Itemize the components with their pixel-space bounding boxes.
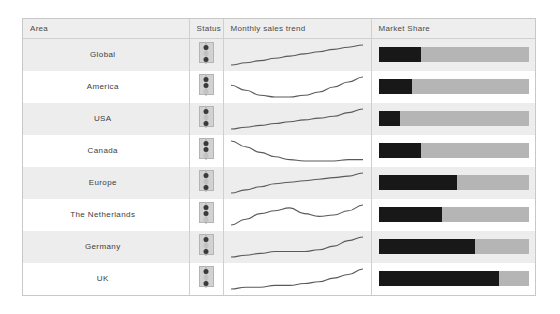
traffic-light-lamp-2	[204, 51, 209, 56]
sparkline-chart	[228, 106, 366, 132]
cell-market-share	[371, 39, 536, 71]
traffic-light-lamp-3	[204, 153, 209, 158]
cell-market-share	[371, 199, 536, 231]
cell-area: UK	[23, 263, 189, 295]
cell-status	[189, 231, 223, 263]
area-label: The Netherlands	[23, 210, 189, 219]
traffic-light-lamp-2	[204, 83, 209, 88]
traffic-light-lamp-1	[204, 109, 209, 114]
sales-table: Area Status Monthly sales trend Market S…	[23, 19, 536, 295]
market-share-bar	[379, 239, 530, 254]
traffic-light-lamp-3	[204, 217, 209, 222]
market-share-bar	[379, 111, 530, 126]
sparkline-chart	[228, 74, 366, 100]
market-share-bar	[379, 175, 530, 190]
market-share-bar-own	[379, 271, 499, 286]
column-header-share[interactable]: Market Share	[371, 19, 536, 39]
sales-dashboard-panel: Area Status Monthly sales trend Market S…	[22, 18, 536, 296]
cell-market-share	[371, 231, 536, 263]
traffic-light-icon[interactable]	[199, 266, 214, 287]
area-label: Canada	[23, 146, 189, 155]
cell-area: Germany	[23, 231, 189, 263]
header-row: Area Status Monthly sales trend Market S…	[23, 19, 536, 39]
cell-area: Global	[23, 39, 189, 71]
column-header-status[interactable]: Status	[189, 19, 223, 39]
traffic-light-icon[interactable]	[199, 170, 214, 191]
traffic-light-icon[interactable]	[199, 106, 214, 127]
cell-area: Europe	[23, 167, 189, 199]
cell-trend	[223, 263, 371, 295]
cell-market-share	[371, 167, 536, 199]
cell-status	[189, 39, 223, 71]
cell-market-share	[371, 71, 536, 103]
cell-trend	[223, 135, 371, 167]
table-body: GlobalAmericaUSACanadaEuropeThe Netherla…	[23, 39, 536, 296]
cell-trend	[223, 199, 371, 231]
table-row[interactable]: The Netherlands	[23, 199, 536, 231]
cell-area: Canada	[23, 135, 189, 167]
market-share-bar-rest	[379, 111, 530, 126]
traffic-light-lamp-3	[204, 89, 209, 94]
market-share-bar	[379, 47, 530, 62]
cell-status	[189, 103, 223, 135]
sparkline-chart	[228, 170, 366, 196]
traffic-light-lamp-1	[204, 205, 209, 210]
market-share-bar	[379, 79, 530, 94]
sparkline-chart	[228, 234, 366, 260]
traffic-light-lamp-1	[204, 173, 209, 178]
area-label: Europe	[23, 178, 189, 187]
cell-trend	[223, 167, 371, 199]
traffic-light-lamp-3	[204, 121, 209, 126]
cell-status	[189, 263, 223, 295]
cell-area: USA	[23, 103, 189, 135]
area-label: Germany	[23, 242, 189, 251]
traffic-light-icon[interactable]	[199, 138, 214, 159]
table-row[interactable]: UK	[23, 263, 536, 295]
table-row[interactable]: Global	[23, 39, 536, 71]
table-row[interactable]: USA	[23, 103, 536, 135]
traffic-light-lamp-1	[204, 77, 209, 82]
traffic-light-lamp-2	[204, 243, 209, 248]
traffic-light-icon[interactable]	[199, 74, 214, 95]
traffic-light-lamp-3	[204, 249, 209, 254]
cell-trend	[223, 231, 371, 263]
cell-area: The Netherlands	[23, 199, 189, 231]
cell-trend	[223, 71, 371, 103]
market-share-bar	[379, 271, 530, 286]
cell-status	[189, 135, 223, 167]
sparkline-chart	[228, 42, 366, 68]
market-share-bar-own	[379, 175, 457, 190]
market-share-bar-own	[379, 79, 412, 94]
table-row[interactable]: America	[23, 71, 536, 103]
cell-trend	[223, 103, 371, 135]
cell-status	[189, 71, 223, 103]
cell-trend	[223, 39, 371, 71]
market-share-bar-own	[379, 111, 400, 126]
traffic-light-lamp-2	[204, 275, 209, 280]
cell-area: America	[23, 71, 189, 103]
cell-market-share	[371, 263, 536, 295]
traffic-light-icon[interactable]	[199, 202, 214, 223]
column-header-area[interactable]: Area	[23, 19, 189, 39]
market-share-bar-own	[379, 239, 475, 254]
traffic-light-lamp-1	[204, 237, 209, 242]
traffic-light-lamp-1	[204, 45, 209, 50]
cell-market-share	[371, 135, 536, 167]
traffic-light-lamp-3	[204, 281, 209, 286]
table-header: Area Status Monthly sales trend Market S…	[23, 19, 536, 39]
table-row[interactable]: Europe	[23, 167, 536, 199]
cell-market-share	[371, 103, 536, 135]
traffic-light-icon[interactable]	[199, 234, 214, 255]
sparkline-chart	[228, 266, 366, 292]
cell-status	[189, 167, 223, 199]
column-header-trend[interactable]: Monthly sales trend	[223, 19, 371, 39]
traffic-light-lamp-1	[204, 269, 209, 274]
traffic-light-lamp-3	[204, 185, 209, 190]
traffic-light-icon[interactable]	[199, 42, 214, 63]
area-label: USA	[23, 114, 189, 123]
traffic-light-lamp-3	[204, 57, 209, 62]
traffic-light-lamp-2	[204, 115, 209, 120]
area-label: UK	[23, 274, 189, 283]
table-row[interactable]: Germany	[23, 231, 536, 263]
table-row[interactable]: Canada	[23, 135, 536, 167]
